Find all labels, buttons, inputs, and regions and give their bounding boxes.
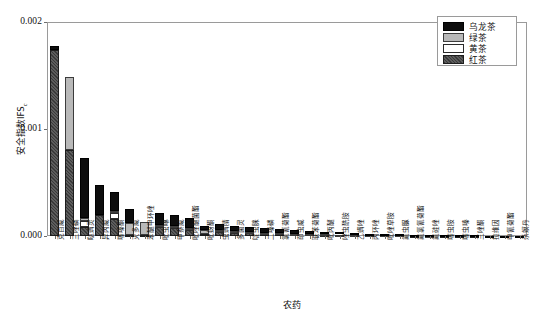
x-tick-mark: [460, 236, 461, 239]
x-tick-label: 杀螟丹: [523, 219, 530, 240]
y-axis-title: 安全指数IFSc: [14, 103, 28, 154]
y-tick-mark: [44, 22, 47, 23]
x-tick-mark: [55, 236, 56, 239]
bar-segment: [110, 211, 119, 213]
x-tick-mark: [280, 236, 281, 239]
x-tick-mark: [415, 236, 416, 239]
x-tick-label: 氟硅唑: [433, 219, 440, 240]
x-tick-label: 吡唑醚菌酯: [193, 205, 200, 240]
bar-segment: [95, 185, 104, 215]
x-tick-label: 二嗪磷: [268, 219, 275, 240]
x-tick-mark: [190, 236, 191, 239]
y-axis-title-subscript: c: [22, 103, 28, 106]
x-tick-mark: [205, 236, 206, 239]
x-tick-mark: [520, 236, 521, 239]
y-tick-mark: [44, 236, 47, 237]
x-tick-mark: [385, 236, 386, 239]
x-tick-mark: [100, 236, 101, 239]
x-tick-label: 吡蚜酮: [208, 219, 215, 240]
x-tick-label: 噻嗪酮: [118, 219, 125, 240]
x-tick-label: 丙环唑: [373, 219, 380, 240]
x-tick-label: 甲萘威: [178, 219, 185, 240]
x-tick-label: 氟虫脲: [403, 219, 410, 240]
x-tick-mark: [160, 236, 161, 239]
x-tick-mark: [490, 236, 491, 239]
x-tick-mark: [130, 236, 131, 239]
x-tick-label: 氯氰菊酯: [283, 212, 290, 240]
x-tick-label: 甲氰菊酯: [508, 212, 515, 240]
x-tick-mark: [175, 236, 176, 239]
x-tick-label: 噻虫嗪: [463, 219, 470, 240]
x-tick-mark: [265, 236, 266, 239]
legend-item[interactable]: 红茶: [443, 53, 487, 65]
x-tick-mark: [400, 236, 401, 239]
x-tick-label: 联苯菊酯: [313, 212, 320, 240]
safety-index-stacked-bar-chart: 0.0000.0010.002 安全指数IFSc 克百威三唑磷哒螨灵异丙威噻嗪酮…: [0, 0, 537, 317]
x-tick-label: 吡丙醚: [328, 219, 335, 240]
y-axis-title-text: 安全指数IFS: [16, 106, 26, 155]
x-tick-mark: [370, 236, 371, 239]
x-tick-label: 苯醚甲环唑: [148, 205, 155, 240]
x-tick-mark: [340, 236, 341, 239]
bar-segment: [110, 213, 119, 219]
x-tick-label: 吡唑草胺: [388, 212, 395, 240]
x-tick-mark: [310, 236, 311, 239]
bar-segment: [80, 158, 89, 218]
x-tick-label: 吡虫啉: [163, 219, 170, 240]
x-tick-label: 灭多威: [133, 219, 140, 240]
x-tick-label: 哒螨灵: [88, 219, 95, 240]
x-tick-mark: [115, 236, 116, 239]
x-tick-label: 氟氯氰菊酯: [418, 205, 425, 240]
y-tick-label: 0.000: [1, 230, 42, 240]
bar-segment: [110, 192, 119, 211]
x-tick-mark: [325, 236, 326, 239]
legend-swatch-icon: [443, 55, 464, 64]
x-tick-mark: [70, 236, 71, 239]
y-tick-label: 0.002: [1, 16, 42, 26]
x-tick-mark: [295, 236, 296, 239]
x-tick-label: 乙螨唑: [358, 219, 365, 240]
x-axis-title: 农药: [283, 298, 301, 311]
legend-swatch-icon: [443, 44, 464, 53]
x-tick-mark: [475, 236, 476, 239]
y-tick-mark: [44, 129, 47, 130]
x-tick-mark: [85, 236, 86, 239]
x-tick-label: 克百威: [58, 219, 65, 240]
x-tick-label: 三唑酮: [478, 219, 485, 240]
x-tick-label: 噻虫胺: [448, 219, 455, 240]
bar-segment: [50, 46, 59, 50]
x-tick-label: 异丙威: [103, 219, 110, 240]
x-tick-mark: [430, 236, 431, 239]
x-tick-mark: [220, 236, 221, 239]
x-tick-label: 虫螨腈: [223, 219, 230, 240]
x-tick-mark: [445, 236, 446, 239]
x-tick-label: 多菌灵: [238, 219, 245, 240]
x-tick-label: 三唑磷: [73, 219, 80, 240]
x-tick-label: 啶虫脒: [253, 219, 260, 240]
legend-swatch-icon: [443, 33, 464, 42]
x-tick-mark: [235, 236, 236, 239]
x-tick-label: 拉维因: [493, 219, 500, 240]
x-tick-mark: [355, 236, 356, 239]
x-tick-label: 唑虫酰胺: [343, 212, 350, 240]
x-tick-label: 茚虫威: [298, 219, 305, 240]
x-tick-mark: [250, 236, 251, 239]
legend-label: 红茶: [469, 53, 487, 65]
x-tick-mark: [505, 236, 506, 239]
bar-segment: [50, 50, 59, 236]
bar-segment: [65, 77, 74, 151]
x-tick-mark: [145, 236, 146, 239]
legend-swatch-icon: [443, 22, 464, 31]
